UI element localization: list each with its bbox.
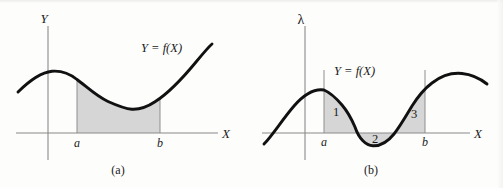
function-label-a: Y = f(X): [141, 41, 182, 55]
curve-a: [18, 44, 212, 109]
figure-canvas: Y X Y = f(X) a b (a): [0, 0, 503, 188]
region-label-2: 2: [372, 132, 378, 146]
y-axis-label-a: Y: [40, 11, 49, 26]
region-label-1: 1: [333, 105, 339, 119]
tick-label-a-upper: b: [157, 136, 163, 150]
region-label-3: 3: [411, 107, 417, 121]
shaded-region-1: [324, 90, 357, 133]
x-axis-label-b: X: [473, 126, 483, 141]
function-label-b: Y = f(X): [334, 64, 375, 78]
caption-b: (b): [364, 163, 378, 177]
tick-label-b-lower: a: [321, 135, 327, 149]
panel-a: Y X Y = f(X) a b (a): [16, 11, 231, 177]
lambda-axis-label-b: λ: [298, 12, 305, 27]
panel-b: λ X Y = f(X) a b 1 2 3 (b): [262, 12, 487, 177]
tick-label-b-upper: b: [422, 135, 428, 149]
caption-a: (a): [111, 163, 124, 177]
figure-root: Y X Y = f(X) a b (a): [0, 0, 503, 188]
tick-label-a-lower: a: [74, 136, 80, 150]
x-axis-label-a: X: [221, 126, 231, 141]
